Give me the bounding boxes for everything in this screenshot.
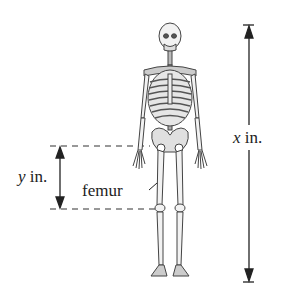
femur-leader-line bbox=[149, 183, 157, 190]
y-unit: in. bbox=[26, 167, 48, 186]
y-dimension-arrow bbox=[56, 147, 64, 208]
y-dimension-label: y in. bbox=[18, 168, 47, 185]
y-variable: y bbox=[18, 167, 26, 186]
x-dimension-label: x in. bbox=[233, 129, 262, 146]
x-dimension-arrow bbox=[243, 25, 254, 282]
skeleton-diagram: y in. femur x in. bbox=[0, 0, 286, 303]
x-unit: in. bbox=[241, 128, 263, 147]
femur-text: femur bbox=[82, 181, 123, 200]
diagram-graphic bbox=[0, 0, 286, 303]
skeleton-figure bbox=[133, 23, 207, 276]
x-variable: x bbox=[233, 128, 241, 147]
femur-label: femur bbox=[82, 182, 123, 199]
